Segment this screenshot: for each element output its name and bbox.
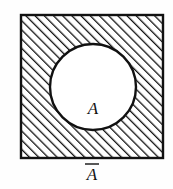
venn-diagram-canvas: A A <box>0 0 173 189</box>
venn-diagram-figure: A A <box>0 0 173 189</box>
complement-label-group: A <box>85 164 99 184</box>
set-a-label: A <box>87 99 99 118</box>
complement-label: A <box>86 165 98 184</box>
